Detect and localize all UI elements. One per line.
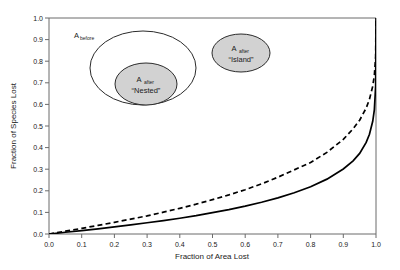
y-axis-title: Fraction of Species Lost — [9, 82, 18, 169]
label-a-after-nested-subscript: after — [144, 79, 154, 85]
y-tick-label: 1.0 — [33, 15, 43, 22]
label-a-after-island-subscript: after — [239, 48, 249, 54]
inset-diagram-island: A after “Island” — [212, 34, 270, 72]
x-tick-label: 1.0 — [371, 241, 381, 248]
y-tick-label: 0.3 — [33, 166, 43, 173]
label-a-after-nested: A — [136, 75, 141, 84]
y-tick-label: 0.1 — [33, 209, 43, 216]
x-tick-label: 0.9 — [338, 241, 348, 248]
label-a-after-island: A — [231, 44, 236, 53]
x-tick-label: 0.5 — [208, 241, 218, 248]
x-tick-label: 0.4 — [175, 241, 185, 248]
label-a-before-subscript: before — [80, 35, 94, 41]
x-tick-label: 0.8 — [306, 241, 316, 248]
x-tick-label: 0.1 — [77, 241, 87, 248]
y-tick-label: 0.4 — [33, 144, 43, 151]
y-tick-label: 0.7 — [33, 79, 43, 86]
caption-island: “Island” — [228, 55, 254, 64]
caption-nested: “Nested” — [132, 86, 161, 95]
y-tick-label: 0.9 — [33, 36, 43, 43]
y-tick-label: 0.5 — [33, 123, 43, 130]
y-tick-label: 0.8 — [33, 58, 43, 65]
y-axis-ticks — [45, 18, 49, 234]
x-axis-tick-labels: 0.0 0.1 0.2 0.3 0.4 0.5 0.6 0.7 0.8 0.9 … — [44, 241, 381, 248]
y-tick-label: 0.0 — [33, 231, 43, 238]
y-tick-label: 0.2 — [33, 187, 43, 194]
x-tick-label: 0.2 — [110, 241, 120, 248]
x-axis-title: Fraction of Area Lost — [175, 252, 250, 261]
y-tick-label: 0.6 — [33, 101, 43, 108]
x-axis-ticks — [49, 234, 376, 238]
label-a-before: A — [74, 31, 79, 40]
x-tick-label: 0.0 — [44, 241, 54, 248]
x-tick-label: 0.6 — [240, 241, 250, 248]
inset-diagram-nested: A before A after “Nested” — [74, 31, 196, 105]
y-axis-tick-labels: 0.0 0.1 0.2 0.3 0.4 0.5 0.6 0.7 0.8 0.9 … — [33, 15, 43, 238]
x-tick-label: 0.3 — [142, 241, 152, 248]
species-area-chart: 0.0 0.1 0.2 0.3 0.4 0.5 0.6 0.7 0.8 0.9 … — [0, 0, 400, 270]
x-tick-label: 0.7 — [273, 241, 283, 248]
